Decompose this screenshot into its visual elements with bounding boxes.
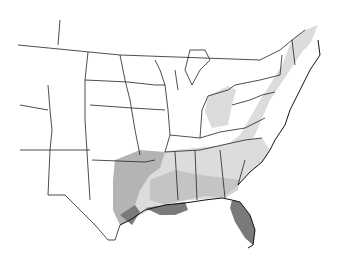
coastlines: [120, 40, 320, 248]
distribution-map: [0, 0, 341, 261]
map-svg: [0, 0, 341, 261]
shaded-zones: [113, 25, 318, 245]
